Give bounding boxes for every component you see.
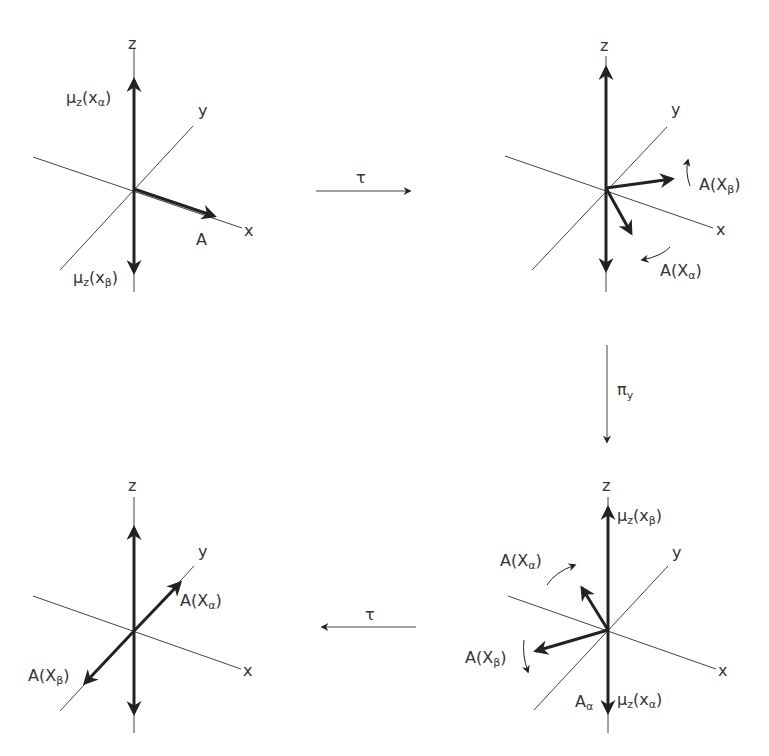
rotation-arrow-alpha bbox=[642, 247, 670, 260]
a-beta-label: A(Xβ) bbox=[28, 668, 69, 686]
rotation-arrow-beta bbox=[524, 640, 529, 672]
mu-beta-label: μz(xβ) bbox=[617, 508, 662, 526]
z-axis-label: z bbox=[128, 478, 136, 494]
y-axis-label: y bbox=[671, 102, 680, 118]
tau-top-label: τ bbox=[356, 168, 366, 187]
rotation-arrow-alpha bbox=[547, 565, 575, 585]
a-beta-vector bbox=[85, 631, 134, 683]
mu-beta-label: μz(xβ) bbox=[73, 270, 118, 288]
y-axis bbox=[532, 127, 667, 270]
z-axis-label: z bbox=[600, 38, 608, 54]
mu-alpha-label: μz(xα) bbox=[66, 90, 111, 108]
a-beta-label: A(Xβ) bbox=[465, 650, 506, 668]
a-alpha-label: A(Xα) bbox=[180, 593, 222, 611]
x-axis-label: x bbox=[718, 663, 727, 679]
a-beta-label: A(Xβ) bbox=[699, 177, 740, 195]
tau-bottom-label: τ bbox=[365, 605, 375, 624]
a-alpha-bottom-label: Aα bbox=[575, 694, 593, 712]
rotation-arrow-beta bbox=[687, 160, 690, 186]
x-axis-label: x bbox=[716, 222, 725, 238]
y-axis-label: y bbox=[198, 103, 207, 119]
panel-bottom-right bbox=[508, 497, 716, 733]
pi-y-label: πy bbox=[617, 380, 633, 402]
a-alpha-vector bbox=[606, 188, 631, 233]
x-axis-label: x bbox=[243, 663, 252, 679]
panel-top-left bbox=[33, 48, 242, 292]
x-axis-label: x bbox=[244, 223, 253, 239]
z-axis-label: z bbox=[128, 36, 136, 52]
z-axis-label: z bbox=[602, 478, 610, 494]
panel-top-right bbox=[505, 56, 713, 292]
a-beta-vector bbox=[606, 179, 672, 188]
mu-alpha-label: μz(xα) bbox=[617, 692, 662, 710]
x-axis bbox=[508, 596, 716, 669]
y-axis-label: y bbox=[672, 545, 681, 561]
a-beta-vector bbox=[536, 630, 608, 651]
panel-bottom-left bbox=[33, 497, 241, 733]
a-vector bbox=[134, 189, 214, 216]
diagram-canvas bbox=[0, 0, 769, 756]
y-axis bbox=[534, 566, 668, 710]
a-alpha-vector bbox=[134, 583, 180, 631]
y-axis-label: y bbox=[198, 544, 207, 560]
x-axis bbox=[33, 157, 242, 228]
a-label: A bbox=[196, 232, 207, 248]
a-alpha-label: A(Xα) bbox=[500, 553, 542, 571]
a-alpha-label: A(Xα) bbox=[660, 263, 702, 281]
y-axis bbox=[60, 126, 193, 270]
